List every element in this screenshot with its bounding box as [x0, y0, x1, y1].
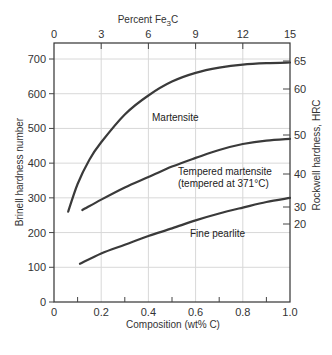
- x-tick-label: 0.6: [188, 306, 203, 318]
- y-tick-label: 700: [28, 53, 46, 65]
- top-tick-label: 3: [98, 28, 104, 40]
- y-axis-title: Brinell hardness number: [14, 117, 25, 226]
- top-tick-label: 6: [145, 28, 151, 40]
- y2-tick-label: 20: [294, 218, 306, 230]
- label-tempered-martensite: Tempered martensite: [178, 166, 272, 177]
- x-tick-label: 0: [51, 306, 57, 318]
- y-tick-label: 0: [40, 296, 46, 308]
- y-tick-label: 500: [28, 122, 46, 134]
- y2-tick-label: 30: [294, 201, 306, 213]
- y2-tick-label: 60: [294, 83, 306, 95]
- hardness-chart: 010020030040050060070000.20.40.60.81.003…: [0, 0, 332, 355]
- x-tick-label: 0.4: [141, 306, 156, 318]
- x-axis-title: Composition (wt% C): [126, 319, 220, 330]
- top-tick-label: 15: [284, 28, 296, 40]
- y-tick-label: 100: [28, 261, 46, 273]
- x-tick-label: 1.0: [282, 306, 297, 318]
- y2-tick-label: 40: [294, 168, 306, 180]
- top-tick-label: 0: [51, 28, 57, 40]
- y2-axis-title: Rockwell hardness, HRC: [311, 99, 322, 210]
- y-tick-label: 300: [28, 192, 46, 204]
- top-axis-title: Percent Fe3C: [118, 14, 179, 28]
- y-tick-label: 600: [28, 88, 46, 100]
- y2-tick-label: 50: [294, 129, 306, 141]
- top-tick-label: 9: [193, 28, 199, 40]
- label-martensite: Martensite: [152, 112, 199, 123]
- label-fine-pearlite: Fine pearlite: [190, 228, 245, 239]
- y2-tick-label: 65: [294, 55, 306, 67]
- x-tick-label: 0.2: [94, 306, 109, 318]
- top-tick-label: 12: [237, 28, 249, 40]
- y-tick-label: 200: [28, 227, 46, 239]
- x-tick-label: 0.8: [235, 306, 250, 318]
- label-tempered-condition: (tempered at 371°C): [178, 178, 269, 189]
- y-tick-label: 400: [28, 157, 46, 169]
- curve-fine-pearlite: [80, 198, 290, 264]
